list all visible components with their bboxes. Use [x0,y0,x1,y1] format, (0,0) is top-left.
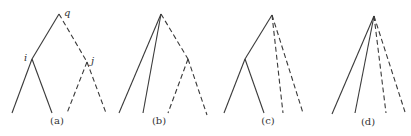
panel-caption-d: (d) [361,116,375,127]
tree-edge-dashed [59,14,87,62]
tree-edge-solid [355,16,374,113]
node-label-q: q [64,7,70,18]
tree-edge-dashed [374,16,405,112]
tree-edge-dashed [188,59,207,115]
tree-edge-solid [245,15,272,59]
panel-caption-b: (b) [152,115,166,126]
tree-transformation-diagram: qij(a) (b) (c) (d) [0,0,411,136]
tree-edge-solid [332,16,374,114]
tree-edge-solid [119,14,161,113]
tree-edge-solid [32,59,52,113]
panel-a: qij(a) [12,7,106,126]
tree-edge-solid [32,14,59,59]
tree-edge-dashed [272,15,283,113]
tree-edge-solid [245,59,264,113]
tree-edge-dashed [161,14,188,59]
tree-edge-solid [143,14,161,113]
tree-edge-dashed [272,15,303,113]
tree-edge-solid [224,59,245,113]
panel-caption-a: (a) [50,115,64,126]
tree-edge-dashed [374,16,386,113]
panel-caption-c: (c) [261,115,275,126]
tree-edge-dashed [168,59,188,113]
panel-d: (d) [332,16,405,127]
panel-b: (b) [119,14,207,126]
node-label-i: i [24,52,27,63]
node-label-j: j [89,55,94,66]
tree-edge-dashed [67,62,87,113]
tree-edge-solid [12,59,32,113]
panel-c: (c) [224,15,303,126]
tree-edge-dashed [87,62,106,113]
